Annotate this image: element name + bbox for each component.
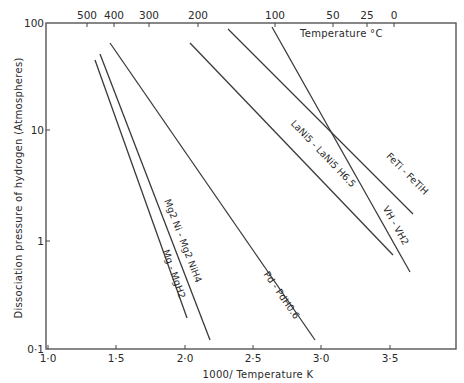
label-vh: VH - VH2 bbox=[381, 204, 412, 247]
x-top-tick-label: 100 bbox=[265, 9, 285, 21]
x-top-tick-label: 300 bbox=[139, 9, 159, 21]
hydride-pressure-chart: 1·0 1·5 2·0 2·5 3·0 3·5 1000/ Temperatur… bbox=[0, 0, 464, 383]
y-tick-label: 10 bbox=[31, 124, 44, 136]
x-tick-label: 2·0 bbox=[177, 352, 194, 364]
x-top-tick-label: 0 bbox=[391, 9, 398, 21]
curve-labels: Mg - MgH2 Mg2 Ni - Mg2 NiH4 Pd - PdH0.6 … bbox=[161, 118, 431, 321]
label-pd: Pd - PdH0.6 bbox=[262, 269, 302, 321]
y-tick-label: 100 bbox=[24, 17, 44, 29]
x-axis-title: 1000/ Temperature K bbox=[203, 369, 314, 380]
y-axis-title: Dissociation pressure of hydrogen (Atmos… bbox=[13, 57, 24, 318]
x-top-tick-label: 500 bbox=[77, 9, 97, 21]
x-tick-label: 2·5 bbox=[245, 352, 262, 364]
label-lani5: LaNi5 - LaNi5 H6.5 bbox=[289, 118, 358, 190]
label-feti: FeTi - FeTiH bbox=[384, 150, 430, 196]
curve-feti bbox=[228, 29, 413, 214]
x-top-axis-title: Temperature °C bbox=[299, 28, 383, 39]
curve-lani5 bbox=[190, 43, 393, 255]
x-axis-bottom: 1·0 1·5 2·0 2·5 3·0 3·5 1000/ Temperatur… bbox=[40, 345, 399, 380]
y-tick-label: 0·1 bbox=[27, 343, 44, 355]
x-tick-label: 3·5 bbox=[382, 352, 399, 364]
x-top-tick-label: 400 bbox=[104, 9, 124, 21]
x-top-tick-label: 200 bbox=[188, 9, 208, 21]
x-top-tick-label: 25 bbox=[360, 9, 373, 21]
x-tick-label: 3·0 bbox=[313, 352, 330, 364]
y-axis: 100 10 1 0·1 Dissociation pressure of hy… bbox=[13, 17, 50, 355]
y-tick-label: 1 bbox=[37, 235, 44, 247]
curve-mg2ni bbox=[100, 54, 210, 340]
x-axis-top: 500 400 300 200 100 50 25 0 Temperature … bbox=[77, 9, 397, 39]
x-tick-label: 1·5 bbox=[108, 352, 125, 364]
curves bbox=[95, 27, 413, 340]
x-top-tick-label: 50 bbox=[326, 9, 339, 21]
